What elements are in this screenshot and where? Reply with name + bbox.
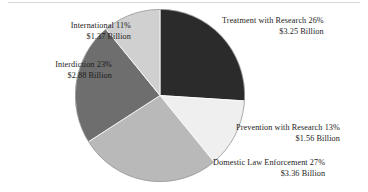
slice-label-interdiction: Interdiction 23% $2.88 Billion	[6, 60, 112, 81]
slice-label-prevention-with-research: Prevention with Research 13% $1.56 Billi…	[236, 123, 340, 144]
slice-label-prevention-name: Prevention with Research 13%	[236, 123, 340, 132]
slice-label-interdiction-amount: $2.88 Billion	[6, 71, 112, 82]
slice-label-domestic-amount: $3.36 Billion	[213, 169, 325, 180]
slice-label-international-amount: $1.37 Billion	[25, 32, 131, 43]
slice-label-treatment-name: Treatment with Research 26%	[222, 16, 324, 25]
slice-label-treatment-with-research: Treatment with Research 26% $3.25 Billio…	[222, 16, 324, 37]
slice-label-domestic-name: Domestic Law Enforcement 27%	[213, 158, 325, 167]
slice-label-international-name: International 11%	[71, 21, 131, 30]
slice-label-interdiction-name: Interdiction 23%	[55, 60, 112, 69]
top-divider	[8, 2, 360, 3]
slice-label-international: International 11% $1.37 Billion	[25, 21, 131, 42]
slice-label-prevention-amount: $1.56 Billion	[236, 134, 340, 145]
slice-label-treatment-amount: $3.25 Billion	[222, 27, 324, 38]
slice-label-domestic-law-enforcement: Domestic Law Enforcement 27% $3.36 Billi…	[213, 158, 325, 179]
pie-chart-figure: Treatment with Research 26% $3.25 Billio…	[0, 0, 368, 192]
